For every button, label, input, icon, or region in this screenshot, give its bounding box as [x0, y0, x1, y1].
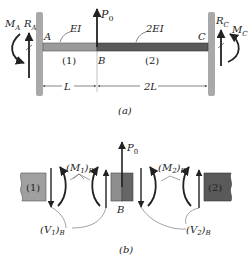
- beam-diagram: P0 RA MA RC MC A B C EI 2EI (1) (2) L: [0, 0, 250, 269]
- left-reaction-label: RA: [23, 18, 37, 32]
- fb-segment-2-label: (2): [208, 182, 222, 193]
- load-label: P0: [100, 8, 114, 23]
- leader-line: [70, 174, 79, 180]
- leader-line: [136, 32, 146, 42]
- segment-1-label: (1): [62, 55, 76, 66]
- joint-b-right: [122, 173, 133, 201]
- moment-2-label: (M2)B: [158, 162, 186, 175]
- moment-1-label: (M1)B: [66, 162, 94, 175]
- point-a-label: A: [43, 31, 51, 42]
- moment-2-arrow-on-joint: [148, 167, 156, 206]
- shear-2-label: (V2)B: [186, 224, 211, 237]
- panel-b: (1) (2) B P0 (M1)B (V1)B: [20, 142, 231, 255]
- leader-line: [72, 208, 106, 228]
- left-moment-label: MA: [4, 18, 20, 32]
- moment-1-arrow-on-1: [58, 167, 66, 206]
- right-moment-arrow: [228, 34, 239, 62]
- right-wall: [208, 12, 215, 96]
- fb-segment-1-label: (1): [26, 182, 40, 193]
- beam-segment-2: [97, 43, 208, 51]
- segment-2-label: (2): [145, 55, 159, 66]
- beam-segment-1: [43, 43, 97, 51]
- length-1-label: L: [63, 81, 71, 92]
- point-b-label: B: [97, 55, 105, 66]
- stiffness-2-label: 2EI: [145, 23, 165, 34]
- leader-line: [60, 32, 70, 42]
- leader-line: [141, 207, 186, 229]
- joint-b-label: B: [116, 204, 124, 215]
- panel-b-caption: (b): [119, 244, 133, 255]
- left-wall: [36, 12, 43, 96]
- shear-1-label: (V1)B: [40, 224, 65, 237]
- leader-line: [186, 208, 199, 224]
- stiffness-1-label: EI: [69, 23, 82, 34]
- right-reaction-label: RC: [215, 15, 230, 29]
- leader-line: [161, 176, 180, 181]
- joint-load-label: P0: [126, 142, 138, 156]
- joint-b-left: [111, 173, 122, 201]
- left-moment-arrow: [12, 34, 24, 63]
- panel-a-caption: (a): [118, 105, 132, 116]
- point-c-label: C: [198, 31, 206, 42]
- length-2-label: 2L: [143, 81, 157, 92]
- panel-a: P0 RA MA RC MC A B C EI 2EI (1) (2) L: [4, 8, 248, 116]
